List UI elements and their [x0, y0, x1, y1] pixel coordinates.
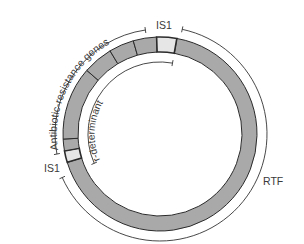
resistance-gene-1-segment	[63, 138, 79, 151]
r-plasmid-diagram: Antibiotic-resistance genes r-determinan…	[0, 0, 304, 244]
resistance-gene-5-segment	[133, 37, 157, 55]
is1-bottom-label: IS1	[44, 162, 60, 174]
is1-upper-segment	[157, 37, 177, 53]
is1-top-label: IS1	[156, 19, 172, 31]
rtf-label: RTF	[263, 175, 283, 187]
